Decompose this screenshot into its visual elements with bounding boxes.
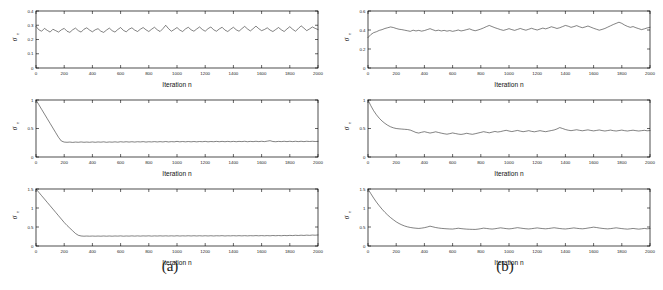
svg-text:n: n	[15, 121, 20, 124]
plot-svg: 020040060080010001200140016001800200000.…	[338, 4, 658, 94]
x-tick-label: 0	[367, 160, 370, 165]
y-tick-label: 0.4	[27, 9, 34, 14]
y-tick-label: 0.1	[27, 51, 34, 56]
plot-svg: 020040060080010001200140016001800200000.…	[338, 93, 658, 183]
y-tick-label: 1	[31, 98, 34, 103]
y-axis-title: σn	[11, 32, 20, 41]
x-tick-label: 200	[393, 160, 401, 165]
y-axis-title: σn	[11, 121, 20, 130]
x-tick-label: 200	[61, 249, 69, 254]
x-axis: 0200400600800100012001400160018002000	[35, 189, 324, 254]
svg-text:n: n	[347, 210, 352, 213]
x-tick-label: 1000	[172, 160, 182, 165]
x-tick-label: 400	[421, 249, 429, 254]
x-tick-label: 400	[89, 160, 97, 165]
x-axis: 0200400600800100012001400160018002000	[35, 11, 324, 76]
y-tick-label: 0	[363, 66, 366, 71]
y-tick-label: 0.5	[359, 126, 366, 131]
x-tick-label: 0	[367, 249, 370, 254]
data-trace	[36, 100, 318, 142]
x-tick-label: 1200	[200, 160, 210, 165]
x-tick-label: 1400	[561, 71, 571, 76]
y-tick-label: 0	[363, 244, 366, 249]
plot-frame	[36, 11, 318, 68]
x-tick-label: 0	[35, 160, 38, 165]
x-tick-label: 600	[449, 160, 457, 165]
x-tick-label: 1800	[285, 249, 295, 254]
plot-frame	[368, 100, 650, 157]
x-tick-label: 2000	[313, 71, 323, 76]
x-axis: 0200400600800100012001400160018002000	[367, 11, 656, 76]
y-axis: 00.511.5	[27, 187, 318, 249]
svg-text:σ: σ	[11, 37, 19, 41]
x-tick-label: 800	[477, 71, 485, 76]
x-tick-label: 2000	[645, 249, 655, 254]
y-tick-label: 0.2	[27, 37, 34, 42]
y-axis: 00.511.5	[359, 187, 650, 249]
svg-text:σ: σ	[343, 126, 351, 130]
x-tick-label: 800	[145, 71, 153, 76]
x-tick-label: 800	[145, 160, 153, 165]
x-axis: 0200400600800100012001400160018002000	[367, 100, 656, 165]
svg-text:n: n	[347, 32, 352, 35]
svg-text:σ: σ	[11, 215, 19, 219]
x-tick-label: 1400	[229, 71, 239, 76]
data-trace	[368, 100, 650, 134]
plot-frame	[36, 100, 318, 157]
x-tick-label: 1200	[532, 71, 542, 76]
y-axis-title: σn	[11, 210, 20, 219]
x-axis: 0200400600800100012001400160018002000	[367, 189, 656, 254]
x-tick-label: 400	[89, 249, 97, 254]
plot-panel-panel-b-top: 020040060080010001200140016001800200000.…	[338, 4, 658, 94]
x-tick-label: 1800	[285, 160, 295, 165]
svg-text:σ: σ	[343, 37, 351, 41]
x-tick-label: 1000	[504, 71, 514, 76]
y-tick-label: 1	[363, 98, 366, 103]
x-tick-label: 1000	[172, 249, 182, 254]
x-tick-label: 1600	[589, 71, 599, 76]
y-tick-label: 0.5	[27, 126, 34, 131]
x-tick-label: 400	[421, 160, 429, 165]
subcaption-b: (b)	[455, 258, 555, 275]
x-tick-label: 600	[117, 249, 125, 254]
y-axis: 00.51	[359, 98, 650, 160]
x-tick-label: 200	[61, 160, 69, 165]
y-tick-label: 0.2	[359, 47, 366, 52]
x-tick-label: 600	[117, 160, 125, 165]
x-tick-label: 400	[421, 71, 429, 76]
x-tick-label: 1600	[257, 249, 267, 254]
x-tick-label: 2000	[645, 71, 655, 76]
x-tick-label: 1000	[172, 71, 182, 76]
figure-root: 020040060080010001200140016001800200000.…	[0, 0, 663, 290]
subcaption-a: (a)	[120, 258, 220, 275]
x-tick-label: 0	[367, 71, 370, 76]
x-tick-label: 1600	[589, 160, 599, 165]
data-trace	[368, 189, 650, 229]
x-tick-label: 200	[393, 249, 401, 254]
x-tick-label: 1400	[561, 160, 571, 165]
x-tick-label: 1600	[257, 71, 267, 76]
x-tick-label: 1400	[561, 249, 571, 254]
x-tick-label: 0	[35, 71, 38, 76]
x-tick-label: 1800	[285, 71, 295, 76]
plot-frame	[368, 11, 650, 68]
y-tick-label: 0.5	[27, 225, 34, 230]
x-axis-title: Iteration n	[494, 81, 524, 88]
x-tick-label: 800	[477, 160, 485, 165]
y-tick-label: 1	[31, 206, 34, 211]
svg-text:n: n	[15, 32, 20, 35]
x-axis-title: Iteration n	[494, 170, 524, 177]
plot-frame	[36, 189, 318, 246]
x-tick-label: 1800	[617, 160, 627, 165]
x-tick-label: 600	[117, 71, 125, 76]
x-tick-label: 200	[393, 71, 401, 76]
y-axis-title: σn	[343, 32, 352, 41]
y-axis: 00.20.40.6	[359, 9, 650, 71]
y-tick-label: 0	[363, 155, 366, 160]
x-tick-label: 1800	[617, 71, 627, 76]
x-tick-label: 1400	[229, 160, 239, 165]
y-tick-label: 0.6	[359, 9, 366, 14]
svg-text:σ: σ	[11, 126, 19, 130]
y-tick-label: 1.5	[359, 187, 366, 192]
x-tick-label: 0	[35, 249, 38, 254]
